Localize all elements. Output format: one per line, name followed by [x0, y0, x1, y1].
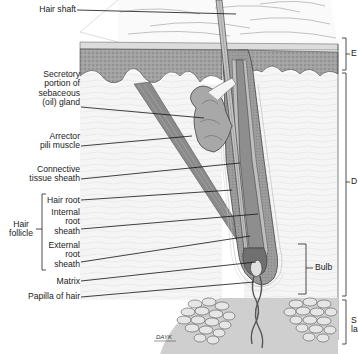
label-internal-root-sheath: Internal root sheath — [51, 208, 80, 236]
label-papilla-of-hair: Papilla of hair — [28, 292, 80, 301]
label-hair-follicle: Hair follicle — [9, 220, 33, 239]
skin-surface-top — [80, 0, 338, 44]
label-external-root-sheath: External root sheath — [48, 241, 80, 269]
label-arrector-pili-muscle: Arrector pili muscle — [40, 132, 80, 151]
label-bulb: Bulb — [315, 263, 332, 272]
label-epidermis: E — [351, 49, 357, 58]
label-connective-tissue-sheath: Connective tissue sheath — [29, 165, 80, 184]
label-hair-shaft: Hair shaft — [39, 5, 76, 14]
label-hair-root: Hair root — [47, 196, 80, 205]
label-sebaceous-gland: Secretory portion of sebaceous (oil) gla… — [38, 70, 80, 108]
label-dermis: D — [351, 177, 357, 186]
artist-signature: DAYK — [156, 334, 173, 340]
hair-follicle-bracket — [36, 194, 46, 270]
label-subcutaneous-layer: S la — [351, 316, 358, 335]
label-matrix: Matrix — [57, 277, 80, 286]
